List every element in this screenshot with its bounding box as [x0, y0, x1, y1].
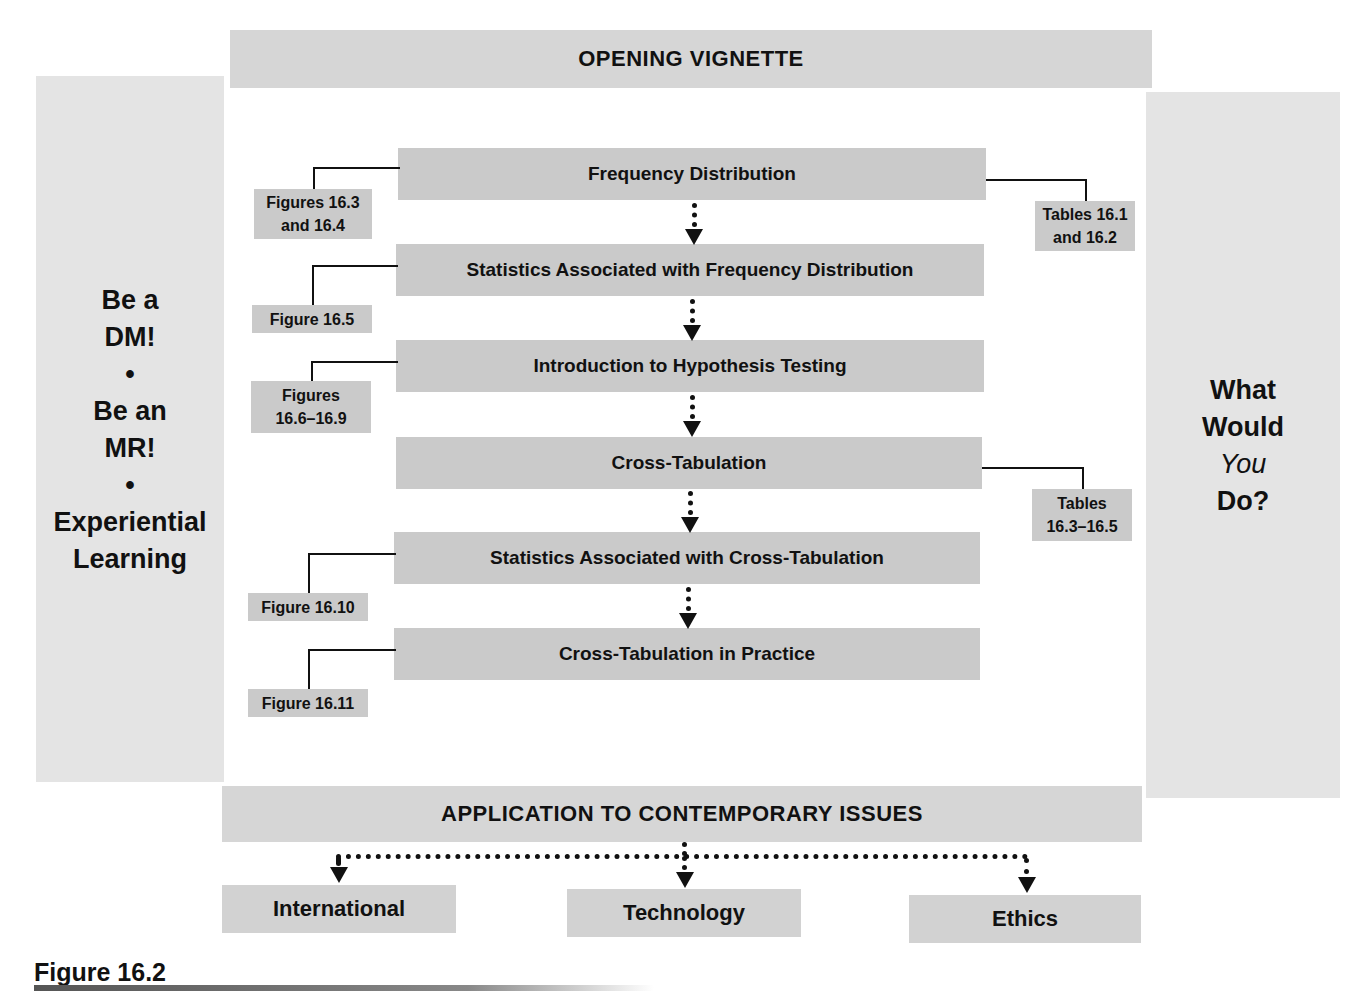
step-label: Cross-Tabulation — [612, 452, 767, 474]
right-line-1: Would — [1146, 409, 1340, 446]
opening-vignette-title: OPENING VIGNETTE — [578, 46, 804, 72]
application-international: International — [222, 885, 456, 933]
ref-line: 16.3–16.5 — [1046, 515, 1117, 538]
ref-figure-16-11: Figure 16.11 — [248, 689, 368, 717]
application-ethics: Ethics — [909, 895, 1141, 943]
ref-connector — [312, 265, 398, 307]
ref-line: Figure 16.11 — [262, 692, 355, 715]
application-technology: Technology — [567, 889, 801, 937]
arrow-down-icon — [683, 421, 701, 437]
caption-rule — [34, 985, 654, 991]
arrow-down-icon — [676, 872, 694, 888]
ref-figure-16-10: Figure 16.10 — [248, 593, 368, 621]
left-panel-text: Be a DM! • Be an MR! • Experiential Lear… — [36, 282, 224, 578]
flow-connector — [690, 395, 700, 419]
flow-connector — [688, 491, 698, 515]
ref-tables-16-3-16-5: Tables16.3–16.5 — [1032, 489, 1132, 541]
ref-line: Tables 16.1 — [1042, 203, 1127, 226]
ref-line: Figures — [275, 384, 346, 407]
ref-connector — [311, 361, 398, 383]
left-line-3: Be an — [36, 393, 224, 430]
ref-line: Figures 16.3 — [266, 191, 359, 214]
left-line-4: MR! — [36, 430, 224, 467]
step-label: Statistics Associated with Cross-Tabulat… — [490, 547, 884, 569]
flow-connector — [692, 203, 702, 227]
ref-connector — [308, 553, 396, 595]
left-line-6: Experiential — [36, 504, 224, 541]
applications-header: APPLICATION TO CONTEMPORARY ISSUES — [222, 786, 1142, 842]
ref-line: and 16.2 — [1042, 226, 1127, 249]
app-connector — [682, 856, 692, 870]
step-frequency-distribution: Frequency Distribution — [398, 148, 986, 200]
application-label: International — [273, 896, 405, 922]
app-connector — [336, 856, 346, 866]
ref-connector — [982, 467, 1084, 491]
ref-line: 16.6–16.9 — [275, 407, 346, 430]
opening-vignette-header: OPENING VIGNETTE — [230, 30, 1152, 88]
right-line-2: You — [1146, 446, 1340, 483]
step-label: Cross-Tabulation in Practice — [559, 643, 815, 665]
bullet-icon: • — [36, 467, 224, 504]
ref-figures-16-3-16-4: Figures 16.3and 16.4 — [254, 189, 372, 239]
arrow-down-icon — [681, 517, 699, 533]
step-cross-tabulation-practice: Cross-Tabulation in Practice — [394, 628, 980, 680]
left-line-0: Be a — [36, 282, 224, 319]
step-hypothesis-testing: Introduction to Hypothesis Testing — [396, 340, 984, 392]
ref-figure-16-5: Figure 16.5 — [252, 305, 372, 333]
ref-line: and 16.4 — [266, 214, 359, 237]
right-line-0: What — [1146, 372, 1340, 409]
step-statistics-frequency-distribution: Statistics Associated with Frequency Dis… — [396, 244, 984, 296]
arrow-down-icon — [683, 325, 701, 341]
ref-line: Figure 16.5 — [270, 308, 354, 331]
arrow-down-icon — [1018, 877, 1036, 893]
step-label: Introduction to Hypothesis Testing — [533, 355, 846, 377]
app-connector — [1024, 858, 1034, 874]
arrow-down-icon — [679, 613, 697, 629]
ref-connector — [986, 179, 1087, 203]
figure-caption: Figure 16.2 — [34, 958, 166, 987]
flow-connector — [686, 587, 696, 611]
ref-figures-16-6-16-9: Figures16.6–16.9 — [251, 381, 371, 433]
ref-line: Figure 16.10 — [261, 596, 354, 619]
step-statistics-cross-tabulation: Statistics Associated with Cross-Tabulat… — [394, 532, 980, 584]
left-line-7: Learning — [36, 541, 224, 578]
bullet-icon: • — [36, 356, 224, 393]
ref-connector — [308, 649, 396, 691]
right-line-3: Do? — [1146, 483, 1340, 520]
flow-connector — [690, 299, 700, 323]
ref-tables-16-1-16-2: Tables 16.1and 16.2 — [1035, 201, 1135, 251]
step-label: Frequency Distribution — [588, 163, 796, 185]
step-cross-tabulation: Cross-Tabulation — [396, 437, 982, 489]
arrow-down-icon — [330, 867, 348, 883]
application-label: Technology — [623, 900, 745, 926]
ref-connector — [313, 167, 400, 191]
arrow-down-icon — [685, 229, 703, 245]
ref-line: Tables — [1046, 492, 1117, 515]
applications-title: APPLICATION TO CONTEMPORARY ISSUES — [441, 801, 923, 827]
application-label: Ethics — [992, 906, 1058, 932]
step-label: Statistics Associated with Frequency Dis… — [467, 259, 914, 281]
right-panel-text: What Would You Do? — [1146, 372, 1340, 520]
left-line-1: DM! — [36, 319, 224, 356]
